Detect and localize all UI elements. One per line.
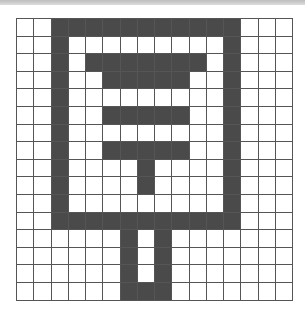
grid-cell[interactable] — [172, 19, 189, 37]
grid-cell[interactable] — [17, 37, 34, 55]
grid-cell[interactable] — [155, 142, 172, 160]
grid-cell[interactable] — [276, 177, 293, 195]
grid-cell[interactable] — [138, 19, 155, 37]
grid-cell[interactable] — [86, 230, 103, 248]
grid-cell[interactable] — [276, 89, 293, 107]
grid-cell[interactable] — [121, 19, 138, 37]
grid-cell[interactable] — [172, 160, 189, 178]
grid-cell[interactable] — [241, 230, 258, 248]
grid-cell[interactable] — [259, 213, 276, 231]
grid-cell[interactable] — [103, 213, 120, 231]
grid-cell[interactable] — [103, 37, 120, 55]
grid-cell[interactable] — [190, 195, 207, 213]
grid-cell[interactable] — [207, 213, 224, 231]
grid-cell[interactable] — [207, 265, 224, 283]
grid-cell[interactable] — [259, 248, 276, 266]
grid-cell[interactable] — [207, 72, 224, 90]
grid-cell[interactable] — [69, 142, 86, 160]
grid-cell[interactable] — [172, 37, 189, 55]
grid-cell[interactable] — [259, 19, 276, 37]
grid-cell[interactable] — [121, 230, 138, 248]
grid-cell[interactable] — [155, 195, 172, 213]
grid-cell[interactable] — [276, 19, 293, 37]
grid-cell[interactable] — [52, 248, 69, 266]
grid-cell[interactable] — [241, 37, 258, 55]
grid-cell[interactable] — [241, 283, 258, 301]
grid-cell[interactable] — [138, 195, 155, 213]
grid-cell[interactable] — [172, 230, 189, 248]
grid-cell[interactable] — [52, 195, 69, 213]
grid-cell[interactable] — [190, 72, 207, 90]
grid-cell[interactable] — [138, 265, 155, 283]
grid-cell[interactable] — [276, 37, 293, 55]
grid-cell[interactable] — [138, 248, 155, 266]
grid-cell[interactable] — [190, 283, 207, 301]
grid-cell[interactable] — [207, 54, 224, 72]
grid-cell[interactable] — [190, 125, 207, 143]
grid-cell[interactable] — [52, 125, 69, 143]
grid-cell[interactable] — [259, 177, 276, 195]
grid-cell[interactable] — [121, 107, 138, 125]
grid-cell[interactable] — [138, 89, 155, 107]
grid-cell[interactable] — [172, 72, 189, 90]
grid-cell[interactable] — [52, 72, 69, 90]
grid-cell[interactable] — [34, 54, 51, 72]
grid-cell[interactable] — [207, 230, 224, 248]
grid-cell[interactable] — [17, 107, 34, 125]
grid-cell[interactable] — [241, 54, 258, 72]
grid-cell[interactable] — [259, 195, 276, 213]
grid-cell[interactable] — [259, 54, 276, 72]
grid-cell[interactable] — [52, 160, 69, 178]
grid-cell[interactable] — [34, 213, 51, 231]
grid-cell[interactable] — [138, 177, 155, 195]
grid-cell[interactable] — [172, 195, 189, 213]
grid-cell[interactable] — [190, 265, 207, 283]
grid-cell[interactable] — [17, 248, 34, 266]
grid-cell[interactable] — [52, 177, 69, 195]
grid-cell[interactable] — [17, 283, 34, 301]
grid-cell[interactable] — [86, 19, 103, 37]
grid-cell[interactable] — [241, 177, 258, 195]
grid-cell[interactable] — [86, 283, 103, 301]
grid-cell[interactable] — [121, 177, 138, 195]
grid-cell[interactable] — [69, 213, 86, 231]
grid-cell[interactable] — [224, 125, 241, 143]
grid-cell[interactable] — [69, 72, 86, 90]
grid-cell[interactable] — [86, 72, 103, 90]
grid-cell[interactable] — [259, 265, 276, 283]
grid-cell[interactable] — [172, 89, 189, 107]
grid-cell[interactable] — [190, 142, 207, 160]
grid-cell[interactable] — [17, 142, 34, 160]
pixel-grid[interactable] — [16, 18, 293, 301]
grid-cell[interactable] — [259, 89, 276, 107]
grid-cell[interactable] — [69, 283, 86, 301]
grid-cell[interactable] — [224, 213, 241, 231]
grid-cell[interactable] — [52, 54, 69, 72]
grid-cell[interactable] — [103, 177, 120, 195]
grid-cell[interactable] — [241, 89, 258, 107]
grid-cell[interactable] — [241, 107, 258, 125]
grid-cell[interactable] — [138, 125, 155, 143]
grid-cell[interactable] — [121, 248, 138, 266]
grid-cell[interactable] — [121, 125, 138, 143]
grid-cell[interactable] — [138, 37, 155, 55]
grid-cell[interactable] — [52, 283, 69, 301]
grid-cell[interactable] — [103, 125, 120, 143]
grid-cell[interactable] — [121, 213, 138, 231]
grid-cell[interactable] — [207, 107, 224, 125]
grid-cell[interactable] — [121, 54, 138, 72]
grid-cell[interactable] — [276, 213, 293, 231]
grid-cell[interactable] — [276, 125, 293, 143]
grid-cell[interactable] — [138, 107, 155, 125]
grid-cell[interactable] — [138, 283, 155, 301]
grid-cell[interactable] — [69, 230, 86, 248]
grid-cell[interactable] — [155, 265, 172, 283]
grid-cell[interactable] — [86, 125, 103, 143]
grid-cell[interactable] — [276, 283, 293, 301]
grid-cell[interactable] — [86, 160, 103, 178]
grid-cell[interactable] — [103, 89, 120, 107]
grid-cell[interactable] — [17, 213, 34, 231]
grid-cell[interactable] — [207, 248, 224, 266]
grid-cell[interactable] — [103, 248, 120, 266]
grid-cell[interactable] — [34, 265, 51, 283]
